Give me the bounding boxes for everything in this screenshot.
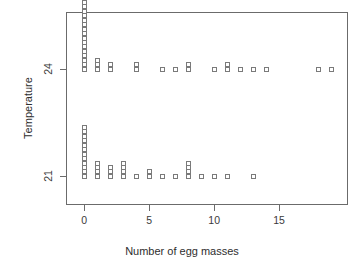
data-point <box>82 18 87 23</box>
x-tick-label: 5 <box>136 214 162 226</box>
x-tick-label: 0 <box>71 214 97 226</box>
x-tick-mark <box>84 205 85 211</box>
data-point <box>147 174 152 179</box>
x-axis-title: Number of egg masses <box>0 245 364 257</box>
data-point <box>186 169 191 174</box>
data-point <box>186 62 191 67</box>
data-point <box>82 31 87 36</box>
x-tick-label: 10 <box>201 214 227 226</box>
data-point <box>95 67 100 72</box>
data-point <box>225 62 230 67</box>
data-point <box>225 174 230 179</box>
data-point <box>134 174 139 179</box>
data-point <box>82 129 87 134</box>
data-point <box>82 13 87 18</box>
data-point <box>95 174 100 179</box>
data-point <box>121 174 126 179</box>
data-point <box>82 40 87 45</box>
data-point <box>82 125 87 130</box>
data-point <box>82 0 87 1</box>
data-point <box>134 67 139 72</box>
data-point <box>82 161 87 166</box>
stripchart-plot: 051015 2124 Number of egg masses Tempera… <box>0 0 364 272</box>
data-point <box>82 36 87 41</box>
data-point <box>82 143 87 148</box>
data-point <box>173 67 178 72</box>
data-point <box>316 67 321 72</box>
data-point <box>82 62 87 67</box>
data-point <box>82 53 87 58</box>
data-point <box>186 165 191 170</box>
data-point <box>186 161 191 166</box>
data-point <box>82 4 87 9</box>
data-point <box>160 67 165 72</box>
data-point <box>95 62 100 67</box>
data-point <box>95 161 100 166</box>
data-point <box>82 58 87 63</box>
data-point <box>251 67 256 72</box>
data-point <box>82 147 87 152</box>
data-point <box>82 152 87 157</box>
data-point <box>147 169 152 174</box>
data-point <box>134 62 139 67</box>
data-point <box>108 67 113 72</box>
data-point <box>82 49 87 54</box>
y-axis-title: Temperature <box>22 38 34 178</box>
data-point <box>173 174 178 179</box>
data-point <box>186 67 191 72</box>
data-point <box>82 9 87 14</box>
data-point <box>82 174 87 179</box>
data-point <box>186 174 191 179</box>
data-point <box>212 67 217 72</box>
data-point <box>82 22 87 27</box>
data-point <box>82 165 87 170</box>
data-point <box>82 67 87 72</box>
data-point <box>95 169 100 174</box>
data-point <box>82 0 87 5</box>
data-point <box>121 165 126 170</box>
data-point <box>82 27 87 32</box>
data-point <box>199 174 204 179</box>
data-point <box>108 62 113 67</box>
data-point <box>82 156 87 161</box>
y-tick-label: 24 <box>42 59 54 79</box>
y-tick-mark <box>60 176 66 177</box>
data-point <box>82 169 87 174</box>
data-point <box>251 174 256 179</box>
data-point <box>329 67 334 72</box>
data-point <box>160 174 165 179</box>
x-tick-mark <box>149 205 150 211</box>
data-point <box>225 67 230 72</box>
data-point <box>264 67 269 72</box>
y-tick-label: 21 <box>42 166 54 186</box>
data-point <box>108 165 113 170</box>
x-tick-mark <box>279 205 280 211</box>
x-tick-label: 15 <box>266 214 292 226</box>
data-point <box>121 161 126 166</box>
data-point <box>95 165 100 170</box>
data-point <box>95 58 100 63</box>
y-tick-mark <box>60 69 66 70</box>
data-point <box>82 44 87 49</box>
data-point <box>108 174 113 179</box>
data-point <box>82 138 87 143</box>
data-point <box>121 169 126 174</box>
data-point <box>212 174 217 179</box>
data-point <box>108 169 113 174</box>
x-tick-mark <box>214 205 215 211</box>
data-point <box>82 134 87 139</box>
data-point <box>238 67 243 72</box>
